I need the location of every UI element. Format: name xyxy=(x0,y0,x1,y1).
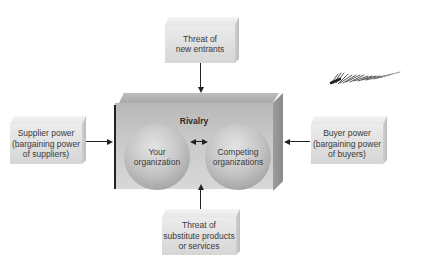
box-side-face xyxy=(236,209,240,255)
sphere-label: Your organization xyxy=(132,147,182,168)
force-label-line: Supplier power xyxy=(12,128,80,139)
arrow-head-right-icon xyxy=(202,139,208,145)
force-label-line: of suppliers) xyxy=(12,149,80,160)
box-front-face: Threat of new entrants xyxy=(165,25,235,63)
force-label-line: of buyers) xyxy=(313,149,381,160)
box-side-face xyxy=(383,116,387,164)
force-label-line: Buyer power xyxy=(313,128,381,139)
box-top-face xyxy=(165,17,239,25)
arrow-new-entrants-to-rivalry xyxy=(200,63,201,89)
box-front-face: Buyer power (bargaining power of buyers) xyxy=(311,124,383,164)
force-new-entrants: Threat of new entrants xyxy=(165,17,239,63)
rivalry-title: Rivalry xyxy=(115,116,273,126)
force-label-line: Threat of xyxy=(163,220,234,231)
force-label-line: new entrants xyxy=(176,44,225,55)
force-buyer-power: Buyer power (bargaining power of buyers) xyxy=(311,116,387,164)
sphere-your-organization: Your organization xyxy=(124,124,190,190)
sphere-competing-organizations: Competing organizations xyxy=(205,124,271,190)
force-substitutes: Threat of substitute products or service… xyxy=(162,209,240,255)
arrow-supplier-to-rivalry xyxy=(86,141,108,142)
arrow-head-left-icon xyxy=(190,139,196,145)
force-label-line: Threat of xyxy=(176,34,225,45)
arrow-substitutes-to-rivalry xyxy=(200,189,201,209)
box-front-face: Threat of substitute products or service… xyxy=(162,217,236,255)
box-top-face xyxy=(10,116,86,124)
force-label-line: (bargaining power xyxy=(313,139,381,150)
force-label-line: substitute products xyxy=(163,231,234,242)
arrow-head-right-icon xyxy=(107,139,113,145)
rivalry-left-edge xyxy=(114,105,116,189)
box-top-face xyxy=(162,209,240,217)
force-supplier-power: Supplier power (bargaining power of supp… xyxy=(10,116,86,164)
box-side-face xyxy=(82,116,86,164)
rivalry-side-face xyxy=(273,93,283,191)
sphere-label: Competing organizations xyxy=(210,147,266,168)
box-side-face xyxy=(235,17,239,63)
force-label-line: or services xyxy=(163,241,234,252)
force-label-line: (bargaining power xyxy=(12,139,80,150)
arrow-head-up-icon xyxy=(198,184,204,190)
pencil-scribble-icon xyxy=(326,62,410,92)
arrow-buyer-to-rivalry xyxy=(289,141,310,142)
rivalry-top-face xyxy=(119,93,279,103)
box-top-face xyxy=(311,116,387,124)
box-front-face: Supplier power (bargaining power of supp… xyxy=(10,124,82,164)
rivalry-box: Rivalry Your organization Competing orga… xyxy=(115,93,283,191)
arrow-head-left-icon xyxy=(284,139,290,145)
